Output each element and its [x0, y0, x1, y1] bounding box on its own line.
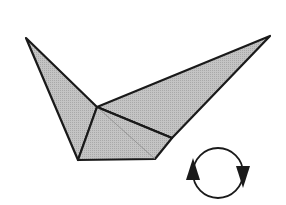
- rotate-icon: [186, 148, 250, 198]
- arrowhead-up-icon: [186, 158, 200, 180]
- origami-diagram: [0, 0, 286, 205]
- diagram-svg: [0, 0, 286, 205]
- arrowhead-down-icon: [236, 166, 250, 188]
